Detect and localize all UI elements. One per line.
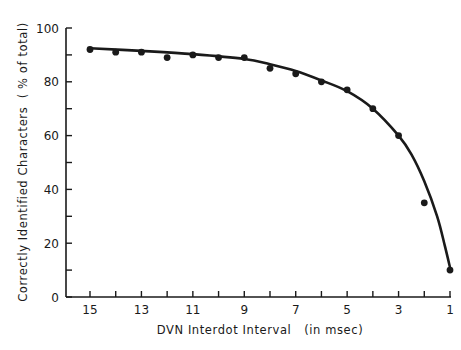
data-point — [189, 52, 196, 59]
data-point — [344, 86, 351, 93]
y-tick-labels: 020406080100 — [36, 22, 59, 305]
y-ticks — [66, 28, 72, 297]
x-tick-label: 1 — [446, 303, 454, 317]
y-tick-label: 80 — [44, 75, 59, 89]
data-points — [87, 46, 454, 273]
x-tick-label: 5 — [343, 303, 351, 317]
data-point — [395, 132, 402, 139]
x-tick-labels: 15131197531 — [82, 303, 453, 317]
y-tick-label: 100 — [36, 22, 59, 36]
data-point — [215, 54, 222, 61]
fitted-curve — [90, 48, 450, 267]
y-tick-label: 40 — [44, 183, 59, 197]
data-point — [138, 49, 145, 56]
y-axis-title: Correctly Identified Characters ( % of t… — [16, 22, 30, 302]
data-point — [87, 46, 94, 53]
data-point — [447, 267, 454, 274]
x-tick-label: 3 — [395, 303, 403, 317]
axes — [66, 28, 451, 297]
y-tick-label: 20 — [44, 237, 59, 251]
x-tick-label: 13 — [134, 303, 149, 317]
data-point — [318, 78, 325, 85]
x-tick-label: 15 — [82, 303, 97, 317]
data-point — [112, 49, 119, 56]
data-point — [164, 54, 171, 61]
y-tick-label: 0 — [51, 291, 59, 305]
chart: 020406080100 15131197531 DVN Interdot In… — [0, 0, 461, 350]
data-point — [267, 65, 274, 72]
y-tick-label: 60 — [44, 129, 59, 143]
data-point — [241, 54, 248, 61]
x-tick-label: 7 — [292, 303, 300, 317]
x-axis-title: DVN Interdot Interval (in msec) — [157, 323, 364, 337]
x-tick-label: 9 — [240, 303, 248, 317]
data-point — [369, 105, 376, 112]
x-ticks — [90, 291, 450, 297]
data-point — [421, 199, 428, 206]
x-tick-label: 11 — [185, 303, 200, 317]
data-point — [292, 70, 299, 77]
